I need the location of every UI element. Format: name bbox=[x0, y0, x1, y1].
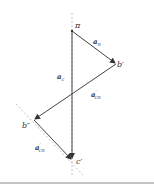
label-b-prime: b′ bbox=[117, 60, 124, 69]
diagonal-reference-line bbox=[16, 104, 83, 175]
vector-a-cn-upper bbox=[35, 64, 116, 119]
label-a-cn-lower: a′cn bbox=[35, 142, 45, 153]
label-b-double-prime: b″ bbox=[22, 121, 30, 130]
label-c-prime: c′ bbox=[76, 157, 82, 166]
vector-diagram: π b′ b″ c′ an ac a′cn a′cn bbox=[0, 0, 154, 190]
label-a-cn-upper: a′cn bbox=[91, 89, 101, 100]
vector-a-cn-lower bbox=[34, 120, 71, 159]
point-pi bbox=[71, 30, 73, 32]
label-pi: π bbox=[74, 21, 81, 30]
label-a-c: ac bbox=[57, 72, 65, 82]
vector-a-n bbox=[72, 31, 115, 63]
label-a-n: an bbox=[93, 37, 101, 47]
